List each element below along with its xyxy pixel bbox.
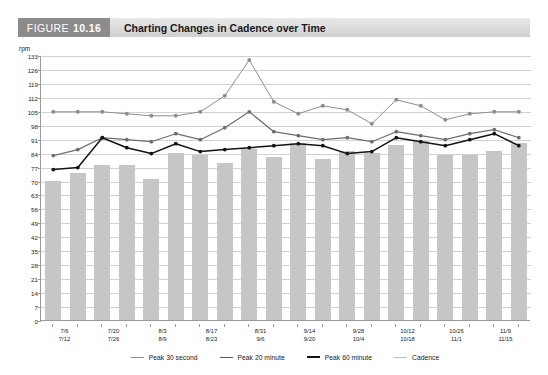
x-axis-tick-mark — [273, 324, 274, 327]
data-point — [174, 114, 178, 118]
y-axis-tick-label: 112 — [28, 94, 38, 101]
y-axis-tick-label: 133 — [28, 53, 38, 60]
x-axis-label: 10/4 — [353, 336, 364, 344]
legend-line-swatch — [131, 357, 144, 358]
legend-item-peak-20-minute[interactable]: Peak 20 minute — [220, 354, 285, 361]
y-axis-tick-label: 119 — [28, 80, 38, 87]
legend-line-swatch — [307, 356, 320, 358]
x-axis-label: 8/3 — [158, 328, 166, 336]
series-line — [53, 112, 519, 156]
data-point — [198, 150, 202, 154]
x-axis-label-group: 8/38/9 — [158, 328, 166, 343]
x-axis-tick-mark — [224, 324, 225, 327]
legend-item-peak-60-minute[interactable]: Peak 60 minute — [307, 354, 372, 361]
data-point — [247, 58, 251, 62]
y-axis-unit-label: rpm — [19, 45, 30, 52]
x-axis-label: 10/26 — [449, 328, 464, 336]
x-axis-label: 8/17 — [206, 328, 217, 336]
data-point — [125, 146, 129, 150]
legend-label: Peak 20 minute — [238, 354, 285, 361]
data-point — [272, 130, 276, 134]
y-axis-tick-label: 63 — [31, 192, 38, 199]
x-axis-label-group: 8/178/23 — [206, 328, 217, 343]
data-point — [51, 154, 55, 158]
data-point — [296, 112, 300, 116]
legend-item-cadence[interactable]: Cadence — [394, 354, 439, 361]
data-point — [345, 108, 349, 112]
data-point — [468, 112, 472, 116]
data-point — [345, 152, 349, 156]
data-point — [149, 152, 153, 156]
figure-title: Charting Changes in Cadence over Time — [124, 22, 326, 34]
x-axis-label: 10/12 — [400, 328, 415, 336]
x-axis-label: 9/20 — [304, 336, 315, 344]
x-axis-label-group: 9/149/20 — [304, 328, 315, 343]
x-axis-label-group: 11/911/15 — [498, 328, 512, 343]
x-axis-label: 8/9 — [158, 336, 166, 344]
legend-label: Peak 60 minute — [325, 354, 372, 361]
x-axis-tick-mark — [52, 324, 53, 327]
x-axis-label-group: 7/67/12 — [59, 328, 70, 343]
y-axis-tick-label: 84 — [31, 150, 38, 157]
data-point — [517, 136, 521, 140]
data-point — [443, 138, 447, 142]
data-point — [223, 126, 227, 130]
x-axis-label: 7/12 — [59, 336, 70, 344]
data-point — [419, 140, 423, 144]
x-axis-label: 7/6 — [59, 328, 70, 336]
x-axis-tick-mark — [175, 324, 176, 327]
data-point — [468, 138, 472, 142]
x-axis-tick-mark — [297, 324, 298, 327]
x-axis-tick-mark — [371, 324, 372, 327]
x-axis-tick-mark — [518, 324, 519, 327]
series-line — [53, 60, 519, 124]
data-point — [345, 136, 349, 140]
data-point — [174, 132, 178, 136]
x-axis-labels: 7/67/127/207/268/38/98/178/238/319/69/14… — [40, 324, 530, 344]
data-point — [492, 110, 496, 114]
series-peak-60-minute — [51, 132, 520, 172]
data-point — [174, 142, 178, 146]
x-axis-tick-mark — [469, 324, 470, 327]
figure-label: FIGURE — [27, 22, 69, 34]
line-series-layer — [41, 56, 531, 321]
data-point — [223, 94, 227, 98]
y-axis-tick-label: 77 — [31, 164, 38, 171]
y-axis-tick-label: 105 — [28, 108, 38, 115]
legend-line-swatch — [394, 357, 407, 358]
y-axis-tick-label: 7 — [35, 304, 38, 311]
data-point — [517, 144, 521, 148]
y-axis-tick-label: 91 — [31, 136, 38, 143]
y-axis-tick-label: 35 — [31, 248, 38, 255]
data-point — [125, 112, 129, 116]
data-point — [468, 132, 472, 136]
data-point — [370, 140, 374, 144]
data-point — [321, 138, 325, 142]
legend-item-peak-30-second[interactable]: Peak 30 second — [131, 354, 198, 361]
data-point — [149, 140, 153, 144]
chart-legend: Peak 30 secondPeak 20 minutePeak 60 minu… — [40, 350, 530, 364]
y-axis-tick-label: 14 — [31, 290, 38, 297]
data-point — [198, 110, 202, 114]
data-point — [370, 122, 374, 126]
data-point — [321, 144, 325, 148]
data-point — [76, 110, 80, 114]
y-axis-tick-mark — [38, 321, 41, 322]
x-axis-tick-mark — [199, 324, 200, 327]
y-axis-tick-label: 28 — [31, 262, 38, 269]
data-point — [100, 136, 104, 140]
data-point — [517, 110, 521, 114]
x-axis-tick-mark — [493, 324, 494, 327]
figure-header: FIGURE 10.16 Charting Changes in Cadence… — [18, 18, 530, 37]
x-axis-label-group: 10/2611/1 — [449, 328, 464, 343]
x-axis-tick-mark — [346, 324, 347, 327]
x-axis-label: 9/6 — [255, 336, 266, 344]
data-point — [51, 168, 55, 172]
figure-number: 10.16 — [73, 22, 101, 34]
data-point — [394, 130, 398, 134]
data-point — [247, 146, 251, 150]
data-point — [370, 150, 374, 154]
x-axis-label-group: 7/207/26 — [108, 328, 119, 343]
legend-line-swatch — [220, 357, 233, 358]
x-axis-label: 7/26 — [108, 336, 119, 344]
